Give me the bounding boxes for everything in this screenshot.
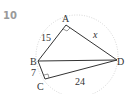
- quadrilateral-diagram: A B C D 15 7 24 x: [0, 0, 133, 94]
- edge-label-cd: 24: [75, 76, 85, 87]
- vertex-label-a: A: [62, 13, 70, 24]
- right-angle-mark-a: [63, 28, 70, 31]
- vertex-label-c: C: [37, 81, 44, 92]
- vertex-label-d: D: [117, 56, 124, 67]
- edge-label-ab: 15: [41, 32, 51, 43]
- diagonal-bd: [38, 60, 117, 61]
- edge-label-bc: 7: [31, 67, 36, 78]
- edge-label-ad: x: [92, 29, 98, 40]
- vertex-label-b: B: [30, 56, 37, 67]
